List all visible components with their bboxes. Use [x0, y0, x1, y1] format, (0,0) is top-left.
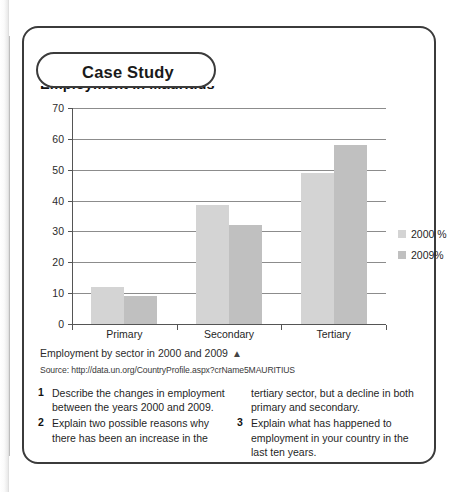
y-axis-tick-label: 20	[34, 256, 64, 268]
legend-swatch	[398, 251, 406, 259]
plot-area	[72, 108, 386, 324]
questions-block: 1Describe the changes in employment betw…	[38, 386, 424, 461]
bar-secondary-2000	[196, 205, 229, 324]
x-axis-category-label: Tertiary	[316, 328, 350, 340]
questions-column-right: tertiary sector, but a decline in both p…	[237, 386, 424, 461]
page-edge	[0, 0, 9, 492]
question-item: 1Describe the changes in employment betw…	[38, 386, 225, 414]
question-continuation-text: tertiary sector, but a decline in both p…	[251, 386, 424, 414]
case-study-tab-label: Case Study	[38, 54, 218, 90]
x-axis-category-label: Secondary	[204, 328, 254, 340]
question-item: 2Explain two possible reasons why there …	[38, 416, 225, 444]
question-text: Explain two possible reasons why there h…	[52, 416, 225, 444]
question-text: Describe the changes in employment betwe…	[52, 386, 225, 414]
chart-caption: Employment by sector in 2000 and 2009▲	[40, 347, 242, 359]
case-study-tab: Case Study	[36, 52, 216, 88]
y-axis-tick	[68, 108, 73, 109]
x-axis-category-label: Primary	[106, 328, 142, 340]
bar-tertiary-2009	[334, 145, 367, 324]
y-axis-tick-label: 70	[34, 102, 64, 114]
questions-column-left: 1Describe the changes in employment betw…	[38, 386, 225, 461]
x-axis-tick	[177, 325, 178, 330]
legend-item: 2000 %	[398, 228, 447, 240]
y-axis-tick	[68, 262, 73, 263]
bar-primary-2009	[124, 296, 157, 324]
gridline	[72, 108, 386, 109]
y-axis-tick-label: 60	[34, 133, 64, 145]
page-edge-line	[9, 36, 10, 456]
y-axis-tick-label: 30	[34, 225, 64, 237]
legend-label: 2009%	[411, 249, 444, 261]
y-axis-tick-label: 10	[34, 287, 64, 299]
y-axis-tick-label: 50	[34, 164, 64, 176]
x-axis-tick	[72, 325, 73, 330]
bar-primary-2000	[91, 287, 124, 324]
y-axis-tick	[68, 201, 73, 202]
bar-chart: 2000 %2009% 010203040506070PrimarySecond…	[32, 102, 430, 354]
y-axis-tick-label: 0	[34, 318, 64, 330]
bar-secondary-2009	[229, 225, 262, 324]
gridline	[72, 139, 386, 140]
question-text: Explain what has happened to employment …	[251, 416, 424, 459]
y-axis-tick	[68, 139, 73, 140]
y-axis-tick	[68, 231, 73, 232]
y-axis-tick	[68, 293, 73, 294]
x-axis-tick	[281, 325, 282, 330]
chart-caption-text: Employment by sector in 2000 and 2009	[40, 347, 228, 359]
x-axis	[72, 324, 386, 325]
question-item: 3Explain what has happened to employment…	[237, 416, 424, 459]
triangle-icon: ▲	[232, 348, 242, 359]
bar-tertiary-2000	[301, 173, 334, 324]
question-number: 3	[237, 416, 251, 459]
legend-item: 2009%	[398, 249, 447, 261]
x-axis-tick	[386, 325, 387, 330]
legend-swatch	[398, 230, 406, 238]
y-axis-tick	[68, 170, 73, 171]
source-line: Source: http://data.un.org/CountryProfil…	[40, 365, 295, 375]
y-axis-tick-label: 40	[34, 195, 64, 207]
legend-label: 2000 %	[411, 228, 447, 240]
question-number: 2	[38, 416, 52, 444]
chart-legend: 2000 %2009%	[398, 228, 447, 270]
question-number: 1	[38, 386, 52, 414]
case-study-card: Case Study Employment in Mauritius 2000 …	[22, 26, 436, 464]
